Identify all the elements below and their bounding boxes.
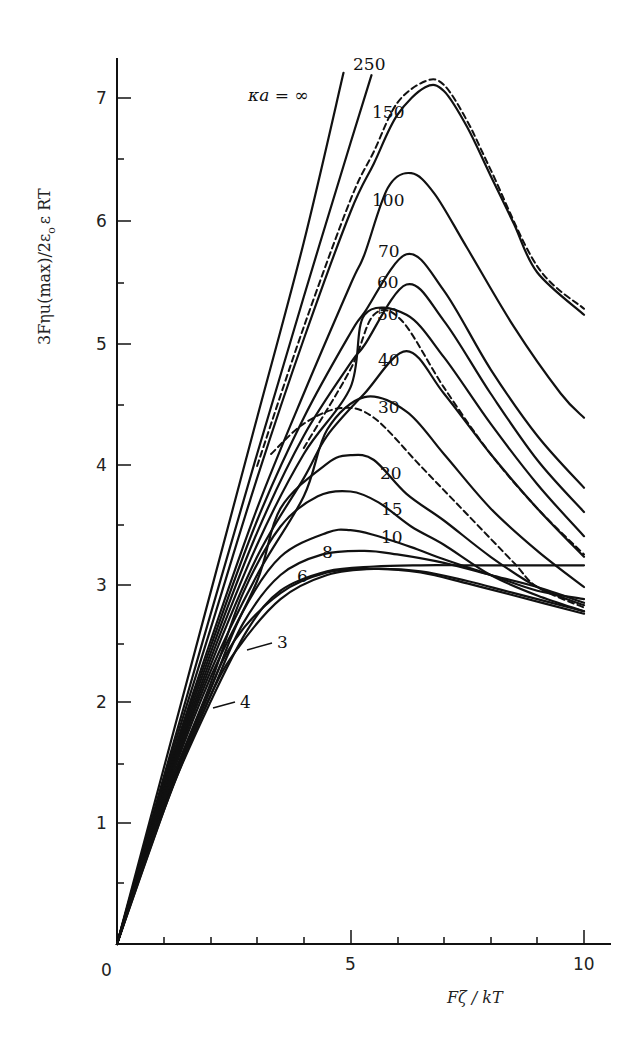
curve-4: [117, 569, 584, 944]
label-ka-60: 60: [377, 272, 399, 292]
label-ka-30: 30: [378, 397, 400, 417]
x-tick-label-10: 10: [573, 954, 595, 974]
x-tick-label-5: 5: [345, 954, 356, 974]
curve-6: [117, 565, 584, 944]
label-ka-50: 50: [377, 304, 399, 324]
label-ka-250: 250: [353, 54, 385, 74]
label-ka-8: 8: [322, 542, 333, 562]
label-ka-150: 150: [372, 102, 404, 122]
label-ka-6: 6: [297, 566, 308, 586]
label-ka-inf: κa = ∞: [247, 85, 309, 105]
y-tick-label-3: 3: [96, 575, 107, 595]
label-ka-4: 4: [240, 692, 251, 712]
curve-70: [117, 254, 584, 944]
y-tick-label-7: 7: [96, 88, 107, 108]
curve-3: [117, 569, 584, 944]
label-ka-70: 70: [378, 241, 400, 261]
axes: [117, 58, 611, 944]
curves: [117, 73, 584, 944]
label-ka-40: 40: [378, 350, 400, 370]
curve-30: [117, 396, 584, 944]
label-ka-20: 20: [380, 463, 402, 483]
y-tick-label-1: 1: [96, 813, 107, 833]
label-ka-3: 3: [277, 632, 288, 652]
curve--a-: [117, 73, 344, 944]
chart-canvas: 0 5 10 1 2 3 4 5 6 7 Fζ / kT 3Fηu(max)/2…: [0, 0, 638, 1060]
label-ka-15: 15: [381, 499, 403, 519]
x-axis-title: Fζ / kT: [446, 988, 504, 1007]
y-tick-label-2: 2: [96, 692, 107, 712]
y-tick-label-5: 5: [96, 334, 107, 354]
curve-150-dashed-: [257, 79, 584, 466]
x-ticks: [164, 930, 584, 944]
curve-40: [117, 351, 584, 944]
x-tick-label-0: 0: [101, 960, 112, 980]
curve-150: [117, 85, 584, 944]
y-ticks: [117, 98, 131, 883]
curve-50-dashed-: [304, 310, 584, 554]
svg-text:3Fηu(max)/2εoε RT: 3Fηu(max)/2εoε RT: [35, 188, 58, 345]
y-tick-label-4: 4: [96, 455, 107, 475]
curve-60: [117, 284, 584, 944]
label-ka-100: 100: [372, 190, 404, 210]
label-ka-10: 10: [381, 527, 403, 547]
curve-100: [117, 173, 584, 944]
y-tick-label-6: 6: [96, 211, 107, 231]
y-axis-title: 3Fηu(max)/2εoε RT: [35, 188, 58, 345]
